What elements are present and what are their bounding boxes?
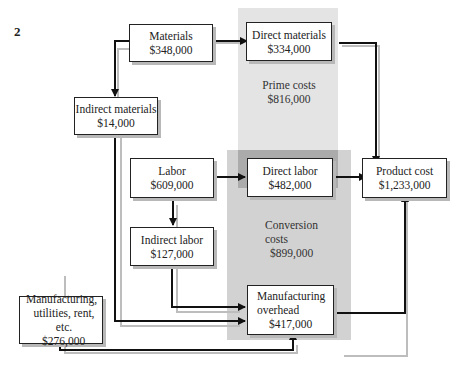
node-title: Direct materials bbox=[252, 28, 326, 42]
node-indirect-materials: Indirect materials $14,000 bbox=[74, 97, 158, 135]
node-manufacturing-overhead: Manufacturing overhead $417,000 bbox=[247, 285, 334, 335]
node-labor: Labor $609,000 bbox=[130, 158, 214, 198]
node-line2: overhead bbox=[257, 303, 299, 317]
node-product-cost: Product cost $1,233,000 bbox=[362, 158, 447, 198]
node-value: $127,000 bbox=[150, 247, 193, 261]
conversion-costs-label: Conversion costs $899,000 bbox=[265, 218, 325, 260]
node-value: $417,000 bbox=[257, 317, 312, 331]
node-value: $14,000 bbox=[97, 116, 134, 130]
node-title: Labor bbox=[158, 164, 185, 178]
node-manufacturing-utilities: Manufacturing, utilities, rent, etc. $27… bbox=[19, 296, 103, 344]
node-title: Indirect materials bbox=[76, 102, 157, 116]
node-direct-materials: Direct materials $334,000 bbox=[246, 22, 332, 61]
node-direct-labor: Direct labor $482,000 bbox=[247, 158, 333, 197]
node-title: Materials bbox=[149, 29, 192, 43]
node-title: Direct labor bbox=[262, 164, 317, 178]
node-value: $334,000 bbox=[267, 42, 310, 56]
node-value: $276,000 bbox=[26, 334, 85, 348]
node-line2: utilities, rent, etc. bbox=[26, 306, 102, 334]
node-value: $1,233,000 bbox=[379, 178, 431, 192]
node-title: Product cost bbox=[376, 164, 433, 178]
node-value: $482,000 bbox=[268, 178, 311, 192]
node-line1: Manufacturing bbox=[257, 289, 325, 303]
prime-costs-label: Prime costs $816,000 bbox=[256, 78, 322, 106]
node-line1: Manufacturing, bbox=[26, 292, 97, 306]
node-title: Indirect labor bbox=[141, 233, 203, 247]
node-indirect-labor: Indirect labor $127,000 bbox=[130, 227, 214, 266]
node-materials: Materials $348,000 bbox=[129, 24, 213, 62]
node-value: $609,000 bbox=[150, 178, 193, 192]
figure-number: 2 bbox=[14, 24, 21, 40]
node-value: $348,000 bbox=[149, 43, 192, 57]
